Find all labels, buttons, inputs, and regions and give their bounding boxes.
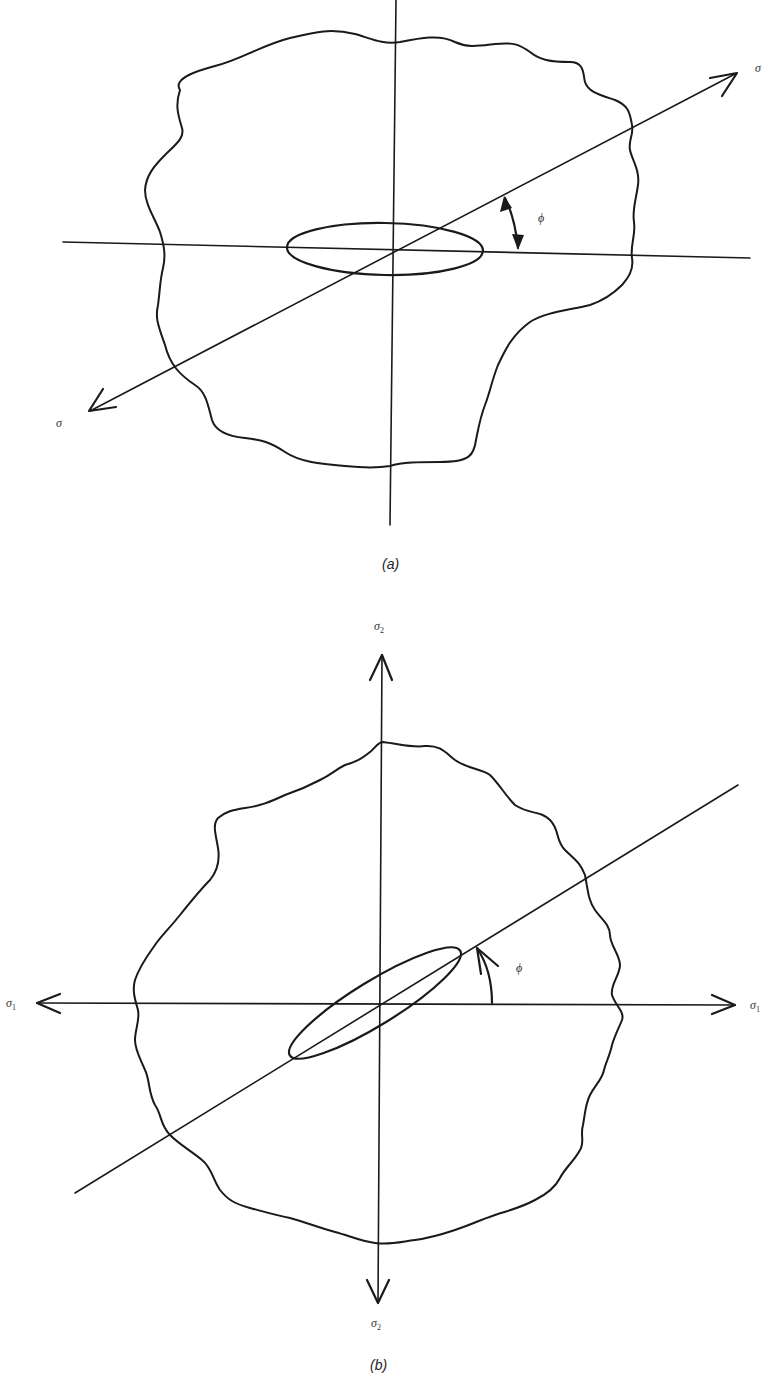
horizontal-axis [63, 242, 750, 258]
figure-b: σ2 σ2 σ1 σ1 ϕ (b) [0, 590, 765, 1387]
figure-a: σ σ ϕ (a) [0, 0, 765, 590]
stress-label-upper-right: σ [755, 61, 762, 75]
vertical-axis [390, 0, 396, 525]
sigma1-label-right: σ1 [750, 998, 760, 1014]
sigma2-label-bottom: σ2 [371, 1316, 381, 1332]
figure-caption-b: (b) [370, 1357, 387, 1373]
angle-arrow-bottom-icon [512, 234, 524, 250]
sigma1-label-left: σ1 [6, 996, 16, 1012]
angle-label-phi: ϕ [538, 211, 544, 225]
figure-caption-a: (a) [382, 556, 399, 572]
crack-axis [75, 785, 738, 1193]
loading-axis [90, 74, 735, 411]
angle-label-phi: ϕ [516, 961, 522, 975]
sigma2-label-top: σ2 [374, 619, 384, 635]
sigma2-axis [378, 655, 382, 1303]
arrow-up-icon [370, 655, 392, 680]
stress-label-lower-left: σ [56, 416, 63, 430]
sigma1-axis [37, 1003, 735, 1005]
